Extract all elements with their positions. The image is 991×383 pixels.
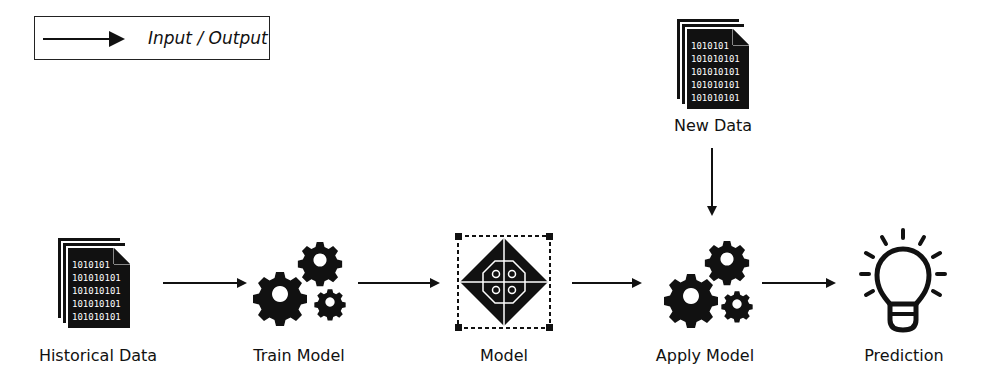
arrow-train-to-model — [358, 277, 448, 289]
node-label-model: Model — [424, 346, 584, 365]
svg-text:101010101: 101010101 — [691, 67, 740, 77]
svg-text:101010101: 101010101 — [72, 299, 121, 309]
svg-text:1010101: 1010101 — [691, 41, 729, 51]
svg-text:101010101: 101010101 — [72, 312, 121, 322]
node-label-train-model: Train Model — [219, 346, 379, 365]
node-label-historical-data: Historical Data — [18, 346, 178, 365]
svg-text:101010101: 101010101 — [691, 80, 740, 90]
arrow-model-to-apply — [572, 277, 652, 289]
node-label-new-data: New Data — [633, 116, 793, 135]
node-label-apply-model: Apply Model — [625, 346, 785, 365]
legend-label: Input / Output — [148, 28, 268, 48]
binary-document-stack-icon: 1010101 101010101 101010101 101010101 10… — [58, 238, 138, 328]
gears-icon — [665, 234, 765, 324]
svg-text:101010101: 101010101 — [72, 286, 121, 296]
model-diamond-icon — [455, 233, 555, 333]
svg-text:101010101: 101010101 — [691, 93, 740, 103]
arrow-newdata-to-apply — [706, 148, 718, 226]
binary-document-stack-icon: 1010101 101010101 101010101 101010101 10… — [677, 19, 757, 109]
legend-box: Input / Output — [34, 16, 270, 60]
arrow-right-icon — [43, 31, 143, 47]
arrow-apply-to-prediction — [762, 277, 847, 289]
lightbulb-icon — [855, 228, 955, 338]
gears-icon — [250, 234, 350, 324]
node-label-prediction: Prediction — [824, 346, 984, 365]
arrow-historical-to-train — [163, 277, 258, 289]
svg-text:101010101: 101010101 — [691, 54, 740, 64]
svg-text:1010101: 1010101 — [72, 260, 110, 270]
svg-text:101010101: 101010101 — [72, 273, 121, 283]
